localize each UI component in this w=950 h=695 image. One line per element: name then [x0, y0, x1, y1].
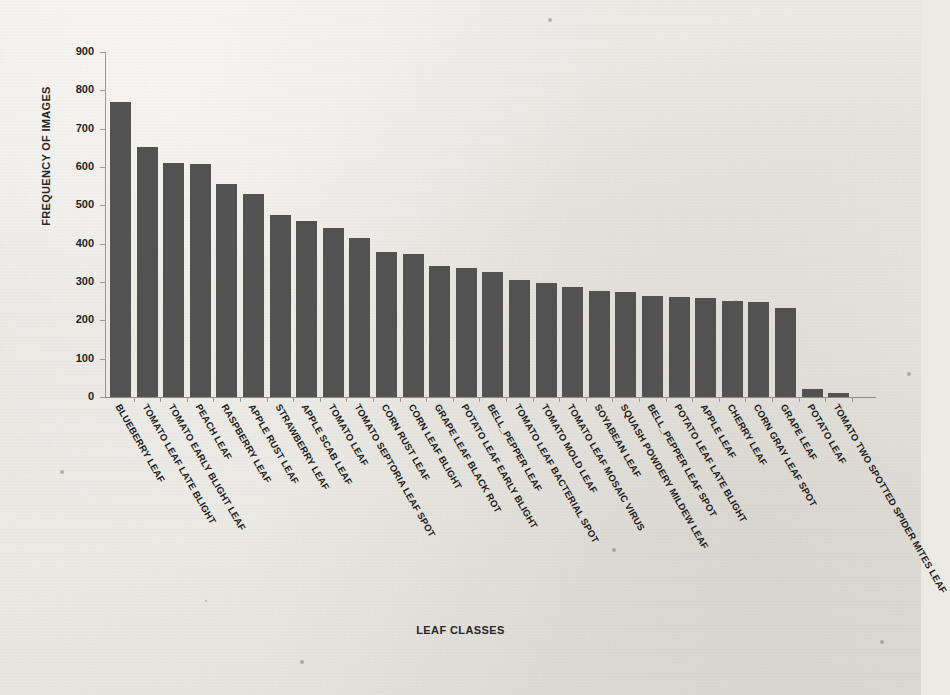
y-axis-tick-mark: [100, 359, 106, 360]
bar: [695, 298, 716, 397]
bar: [429, 266, 450, 397]
x-axis-category-label: BLUEBERRY LEAF: [113, 402, 167, 484]
x-axis-category-label: APPLE RUST LEAF: [246, 402, 301, 486]
bar: [190, 164, 211, 397]
x-axis-category-label: RASPBERRY LEAF: [220, 402, 274, 485]
y-axis-tick-mark: [100, 244, 106, 245]
bar: [562, 287, 583, 397]
y-axis-tick-mark: [100, 205, 106, 206]
y-axis-tick-label: 700: [46, 122, 94, 134]
scan-speck: [735, 300, 737, 302]
scan-speck: [60, 470, 64, 474]
y-axis-tick-label: 400: [46, 237, 94, 249]
bar: [323, 228, 344, 397]
y-axis-tick-label: 100: [46, 352, 94, 364]
scan-speck: [907, 372, 911, 376]
y-axis-tick-label: 900: [46, 45, 94, 57]
bar: [270, 215, 291, 397]
scan-speck: [548, 18, 552, 22]
bar: [775, 308, 796, 397]
y-axis-tick-label: 300: [46, 275, 94, 287]
bar: [296, 221, 317, 397]
y-axis-tick-label: 800: [46, 83, 94, 95]
y-axis-tick-mark: [100, 282, 106, 283]
x-axis-category-labels: BLUEBERRY LEAFTOMATO LEAF LATE BLIGHTTOM…: [106, 402, 906, 632]
y-axis-tick-label: 200: [46, 313, 94, 325]
y-axis-tick-label: 0: [46, 390, 94, 402]
bar: [642, 296, 663, 397]
x-axis-category-label: TOMATO TWO SPOTTED SPIDER MITES LEAF: [832, 402, 950, 595]
y-axis-line: [105, 52, 106, 397]
bar: [243, 194, 264, 397]
y-axis-tick-mark: [100, 90, 106, 91]
bar: [615, 292, 636, 397]
y-axis-tick-mark: [100, 167, 106, 168]
scan-speck: [880, 640, 884, 644]
y-axis-tick-label: 600: [46, 160, 94, 172]
bar: [828, 393, 849, 397]
y-axis-tick-mark: [100, 52, 106, 53]
y-axis-tick-mark: [100, 129, 106, 130]
bar: [509, 280, 530, 397]
bar: [589, 291, 610, 397]
x-axis-category-label: CORN RUST LEAF: [379, 402, 432, 483]
bar: [163, 163, 184, 397]
bar: [802, 389, 823, 397]
bar: [376, 252, 397, 397]
x-axis-line: [100, 397, 876, 398]
bar: [216, 184, 237, 397]
bar: [536, 283, 557, 397]
bar: [482, 272, 503, 397]
bar: [748, 302, 769, 397]
scan-speck: [612, 548, 616, 552]
bar: [722, 301, 743, 397]
y-axis-tick-mark: [100, 397, 106, 398]
bar: [110, 102, 131, 397]
bar: [456, 268, 477, 397]
plot-area: 9008007006005004003002001000: [106, 52, 876, 397]
bar: [403, 254, 424, 397]
bar: [137, 147, 158, 397]
y-axis-tick-mark: [100, 320, 106, 321]
bar: [349, 238, 370, 397]
y-axis-tick-label: 500: [46, 198, 94, 210]
bar: [669, 297, 690, 397]
scan-speck: [205, 600, 207, 602]
scan-speck: [300, 660, 304, 664]
